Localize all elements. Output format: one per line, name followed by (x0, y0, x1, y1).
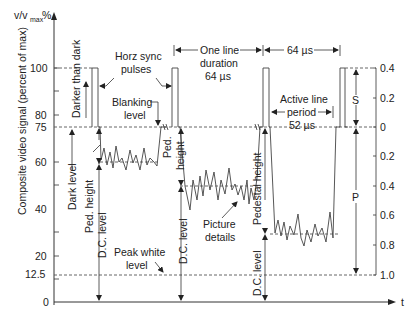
svg-text:0.4: 0.4 (380, 62, 395, 74)
svg-text:duration: duration (200, 57, 238, 69)
svg-text:Dark level: Dark level (66, 163, 78, 210)
peak-white-annotation: Peak white level (114, 246, 166, 272)
x-axis-label: t (401, 296, 404, 308)
dc-level-annotation-3: D.C. level (251, 240, 265, 300)
svg-text:Pedestal height: Pedestal height (251, 153, 263, 225)
blanking-level-annotation: Blanking level (112, 96, 158, 125)
svg-text:Picture: Picture (203, 218, 236, 230)
svg-text:details: details (205, 231, 235, 243)
svg-text:52 µs: 52 µs (289, 119, 315, 131)
svg-text:60: 60 (35, 156, 47, 168)
svg-text:0: 0 (380, 121, 386, 133)
one-line-duration-annotation: One line duration 64 µs (174, 44, 263, 82)
svg-text:64 µs: 64 µs (287, 44, 313, 56)
svg-text:0.6: 0.6 (380, 209, 395, 221)
svg-text:One line: One line (200, 44, 239, 56)
svg-text:40: 40 (35, 203, 47, 215)
svg-text:P: P (352, 191, 359, 203)
svg-text:%: % (42, 9, 51, 21)
svg-text:period: period (287, 106, 316, 118)
right-scale: 0.4 0.2 0 0.2 0.4 0.6 0.8 1.0 (373, 62, 395, 281)
svg-text:0.8: 0.8 (380, 239, 395, 251)
svg-text:Peak white: Peak white (114, 246, 166, 258)
svg-text:100: 100 (30, 62, 48, 74)
svg-text:0: 0 (43, 296, 49, 308)
ped-height-annotation-2: Ped. height (161, 129, 186, 192)
active-line-period-annotation: Active line period 52 µs (272, 93, 333, 131)
svg-text:Active line: Active line (280, 93, 328, 105)
svg-text:level: level (126, 259, 148, 271)
composite-video-diagram: t v/v max % Composite video signal (perc… (0, 0, 413, 322)
y-axis-title: Composite video signal (percent of max) (16, 27, 28, 215)
pedestal-height-annotation: Pedestal height (251, 129, 268, 240)
y-axis (51, 12, 57, 305)
svg-text:Ped.: Ped. (161, 136, 173, 158)
svg-text:64 µs: 64 µs (205, 70, 231, 82)
picture-details-annotation: Picture details (203, 202, 237, 243)
svg-text:0.2: 0.2 (380, 92, 395, 104)
y-axis-top-label: v/v max % (14, 9, 51, 23)
svg-text:pulses: pulses (121, 63, 151, 75)
svg-text:75: 75 (35, 121, 47, 133)
darker-than-dark-annotation: Darker than dark (70, 39, 86, 118)
64us-annotation: 64 µs (265, 44, 340, 56)
svg-text:20: 20 (35, 250, 47, 262)
svg-text:0.2: 0.2 (380, 150, 395, 162)
svg-text:S: S (352, 94, 359, 106)
dc-level-annotation-1: D.C. level (96, 170, 108, 300)
dark-level-annotation: Dark level (66, 130, 78, 210)
svg-text:0.4: 0.4 (380, 180, 395, 192)
horz-sync-annotation: Horz sync pulses (100, 50, 171, 86)
svg-text:level: level (124, 109, 146, 121)
svg-text:height: height (174, 141, 186, 170)
svg-text:Ped. height: Ped. height (83, 180, 95, 233)
dc-level-annotation-2: D.C. level (177, 192, 189, 300)
svg-text:Horz sync: Horz sync (115, 50, 162, 62)
svg-text:Darker than dark: Darker than dark (70, 39, 82, 118)
svg-text:D.C. level: D.C. level (96, 212, 108, 258)
svg-text:Blanking: Blanking (112, 96, 152, 108)
svg-text:80: 80 (35, 109, 47, 121)
svg-text:12.5: 12.5 (25, 268, 46, 280)
svg-text:1.0: 1.0 (380, 269, 395, 281)
svg-text:D.C. level: D.C. level (251, 250, 263, 296)
x-axis (54, 299, 396, 305)
s-p-annotation: S P (352, 70, 359, 273)
svg-text:D.C. level: D.C. level (177, 218, 189, 264)
svg-text:v/v: v/v (14, 9, 28, 21)
